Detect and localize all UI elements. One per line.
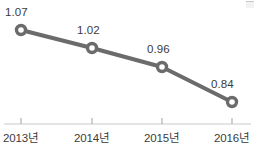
x-axis-category-label: 2015년 [135,133,189,145]
data-value-label: 0.96 [147,44,170,56]
data-point-marker [158,63,167,72]
series-line [21,30,232,102]
data-value-label: 0.84 [211,79,234,91]
data-value-label: 1.02 [77,25,100,37]
data-point-marker [17,26,26,35]
data-value-label: 1.07 [5,7,28,19]
x-axis-category-label: 2016년 [205,133,255,145]
data-point-marker [228,98,237,107]
x-axis-ticks [21,118,232,124]
corner-artifact [246,1,254,8]
chart-canvas [0,0,255,151]
x-axis-category-label: 2013년 [0,133,48,145]
data-point-marker [88,44,97,53]
line-chart: 1.071.020.960.84 2013년2014년2015년2016년 [0,0,255,151]
x-axis-category-label: 2014년 [65,133,119,145]
